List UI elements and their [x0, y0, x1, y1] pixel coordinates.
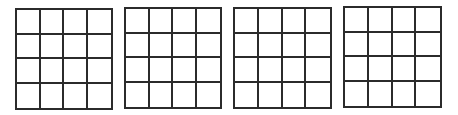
grid-cell [235, 34, 259, 59]
grid-cell [150, 83, 174, 108]
grid-cell [173, 83, 197, 108]
grid-cell [393, 8, 417, 33]
grid-cell [345, 57, 369, 82]
empty-grid-3 [233, 7, 332, 109]
empty-grid-1 [15, 8, 113, 110]
grid-cell [393, 82, 417, 107]
grid-cell [306, 9, 330, 34]
grid-cell [173, 9, 197, 34]
grid-cell [416, 57, 440, 82]
grid-cell [306, 83, 330, 108]
grid-cell [393, 57, 417, 82]
grid-cell [64, 84, 88, 109]
grid-cell [150, 58, 174, 83]
grid-cell [235, 83, 259, 108]
grid-cell [416, 33, 440, 58]
grid-cell [88, 59, 112, 84]
grid-cell [150, 34, 174, 59]
grid-cell [197, 9, 221, 34]
grid-cell [126, 83, 150, 108]
grid-cell [41, 35, 65, 60]
grid-cell [88, 35, 112, 60]
grid-cell [369, 82, 393, 107]
grid-cell [283, 58, 307, 83]
grid-cell [197, 34, 221, 59]
grid-cell [235, 9, 259, 34]
grid-cell [369, 57, 393, 82]
empty-grid-4 [343, 6, 442, 108]
grid-cell [126, 34, 150, 59]
grid-cell [416, 8, 440, 33]
grid-cell [306, 34, 330, 59]
grid-cell [235, 58, 259, 83]
grid-cell [150, 9, 174, 34]
grid-cell [259, 9, 283, 34]
grid-cell [17, 10, 41, 35]
grid-cell [259, 34, 283, 59]
grid-cell [259, 83, 283, 108]
grid-cell [283, 34, 307, 59]
grid-cell [17, 35, 41, 60]
grid-cell [197, 58, 221, 83]
grid-cell [369, 33, 393, 58]
grid-cell [88, 10, 112, 35]
grid-cell [173, 58, 197, 83]
grid-cell [64, 59, 88, 84]
grid-cell [197, 83, 221, 108]
grid-cell [64, 10, 88, 35]
grid-cell [345, 8, 369, 33]
grid-cell [283, 83, 307, 108]
grid-cell [369, 8, 393, 33]
grid-cell [416, 82, 440, 107]
grid-cell [41, 59, 65, 84]
grid-cell [126, 9, 150, 34]
grid-cell [259, 58, 283, 83]
grid-cell [88, 84, 112, 109]
grid-cell [17, 59, 41, 84]
grid-cell [17, 84, 41, 109]
grid-cell [393, 33, 417, 58]
grid-cell [126, 58, 150, 83]
empty-grid-2 [124, 7, 222, 109]
grid-cell [345, 33, 369, 58]
grid-cell [283, 9, 307, 34]
grid-cell [345, 82, 369, 107]
grid-cell [173, 34, 197, 59]
grid-cell [306, 58, 330, 83]
grid-cell [64, 35, 88, 60]
grid-cell [41, 84, 65, 109]
grid-cell [41, 10, 65, 35]
